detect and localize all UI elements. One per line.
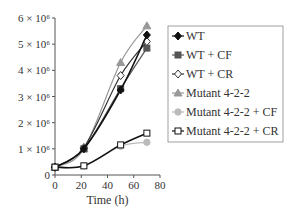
open-diamond-marker-icon bbox=[117, 72, 124, 80]
legend-item: Mutant 4-2-2 + CR bbox=[172, 124, 278, 138]
legend-label: WT bbox=[186, 29, 205, 43]
y-tick-label: 6 × 10⁶ bbox=[18, 12, 50, 24]
legend-label: Mutant 4-2-2 bbox=[186, 86, 250, 100]
series-wt-cf bbox=[52, 45, 150, 170]
series-line bbox=[55, 142, 147, 167]
y-tick-label: 1 × 10⁶ bbox=[18, 143, 50, 155]
legend-item: Mutant 4-2-2 + CF bbox=[172, 105, 277, 119]
legend: WTWT + CFWT + CRMutant 4-2-2Mutant 4-2-2… bbox=[168, 26, 283, 142]
y-tick-label: 4 × 10⁶ bbox=[18, 64, 50, 76]
series-wt-cr bbox=[52, 38, 151, 172]
series-mutant-4-2-2-cf bbox=[52, 139, 150, 170]
x-tick-label: 20 bbox=[76, 179, 88, 191]
open-square-marker-icon bbox=[52, 164, 58, 170]
series-group bbox=[51, 22, 151, 171]
open-square-marker-icon bbox=[175, 128, 181, 134]
series-mutant-4-2-2 bbox=[51, 22, 151, 170]
triangle-marker-icon bbox=[143, 22, 151, 29]
series-line bbox=[55, 35, 147, 167]
legend-label: WT + CR bbox=[186, 67, 233, 81]
legend-label: WT + CF bbox=[186, 48, 232, 62]
y-tick-label: 0 bbox=[45, 169, 51, 181]
x-tick-label: 40 bbox=[102, 179, 114, 191]
y-tick-label: 5 × 10⁶ bbox=[18, 38, 50, 50]
x-tick-label: 0 bbox=[52, 179, 58, 191]
diamond-marker-icon bbox=[143, 31, 150, 39]
series-wt bbox=[52, 31, 151, 171]
y-tick-label: 2 × 10⁶ bbox=[18, 117, 50, 129]
open-square-marker-icon bbox=[144, 130, 150, 136]
line-chart: 01 × 10⁶2 × 10⁶3 × 10⁶4 × 10⁶5 × 10⁶6 × … bbox=[0, 0, 296, 213]
circle-marker-icon bbox=[175, 109, 181, 115]
x-tick-label: 80 bbox=[155, 179, 167, 191]
legend-label: Mutant 4-2-2 + CF bbox=[186, 105, 277, 119]
x-tick-label: 60 bbox=[128, 179, 140, 191]
series-mutant-4-2-2-cr bbox=[52, 130, 150, 170]
y-tick-label: 3 × 10⁶ bbox=[18, 91, 50, 103]
x-axis-title: Time (h) bbox=[87, 193, 129, 207]
series-line bbox=[55, 42, 147, 168]
triangle-marker-icon bbox=[117, 58, 125, 65]
open-square-marker-icon bbox=[81, 163, 87, 169]
square-marker-icon bbox=[175, 52, 181, 58]
circle-marker-icon bbox=[144, 139, 150, 145]
open-square-marker-icon bbox=[118, 142, 124, 148]
legend-label: Mutant 4-2-2 + CR bbox=[186, 124, 278, 138]
series-line bbox=[55, 26, 147, 167]
